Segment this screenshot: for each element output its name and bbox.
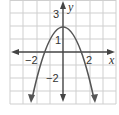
y-axis-up-arrow-icon bbox=[60, 1, 66, 9]
y-tick-3: 3 bbox=[53, 8, 59, 20]
x-axis-label: x bbox=[108, 53, 115, 67]
y-tick-neg2: −2 bbox=[46, 72, 59, 84]
y-axis-down-arrow-icon bbox=[60, 94, 66, 102]
x-tick-neg2: −2 bbox=[25, 54, 38, 66]
curve-right-arrow-icon bbox=[91, 94, 98, 103]
curve-left-arrow-icon bbox=[28, 94, 35, 103]
x-tick-2: 2 bbox=[86, 54, 92, 66]
coordinate-plane: y x 3 1 −2 −2 2 bbox=[0, 0, 119, 115]
x-axis-left-arrow-icon bbox=[11, 49, 19, 55]
y-axis-label: y bbox=[67, 0, 74, 14]
y-tick-1: 1 bbox=[55, 34, 61, 46]
